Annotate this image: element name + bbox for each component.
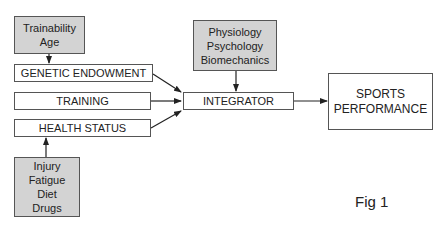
sports-label: SPORTS (356, 87, 405, 102)
performance-label: PERFORMANCE (334, 102, 427, 117)
biomechanics-label: Biomechanics (201, 53, 269, 67)
psychology-label: Psychology (207, 39, 263, 53)
integrator-label: INTEGRATOR (203, 94, 274, 108)
genetic-endowment-label: GENETIC ENDOWMENT (21, 66, 146, 80)
training-box: TRAINING (14, 92, 151, 110)
physiology-psychology-biomechanics-box: Physiology Psychology Biomechanics (193, 20, 277, 71)
health-status-label: HEALTH STATUS (39, 121, 126, 135)
physiology-label: Physiology (208, 25, 261, 39)
injury-fatigue-diet-drugs-box: Injury Fatigue Diet Drugs (14, 157, 80, 217)
sports-performance-box: SPORTS PERFORMANCE (328, 73, 433, 130)
age-label: Age (40, 35, 60, 49)
fatigue-label: Fatigue (29, 173, 66, 187)
figure-caption: Fig 1 (355, 193, 388, 210)
arrow-health-to-integrator (151, 111, 181, 128)
arrow-genetic-to-integrator (153, 74, 181, 92)
genetic-endowment-box: GENETIC ENDOWMENT (14, 64, 153, 82)
trainability-label: Trainability (23, 21, 76, 35)
drugs-label: Drugs (32, 201, 61, 215)
trainability-age-box: Trainability Age (14, 16, 85, 54)
integrator-box: INTEGRATOR (183, 92, 294, 110)
injury-label: Injury (34, 159, 61, 173)
diet-label: Diet (37, 187, 57, 201)
health-status-box: HEALTH STATUS (14, 119, 151, 137)
training-label: TRAINING (56, 94, 109, 108)
